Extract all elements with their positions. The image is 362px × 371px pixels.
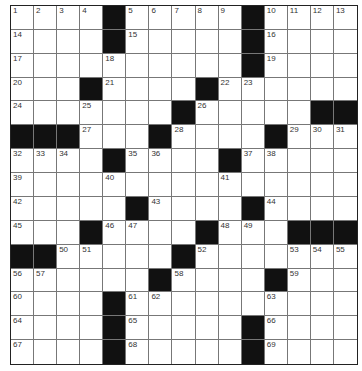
answer-cell[interactable]: 25: [80, 101, 103, 125]
answer-cell[interactable]: [196, 149, 219, 173]
answer-cell[interactable]: [172, 149, 195, 173]
answer-cell[interactable]: [311, 316, 334, 340]
answer-cell[interactable]: 62: [149, 292, 172, 316]
answer-cell[interactable]: [126, 101, 149, 125]
answer-cell[interactable]: [57, 78, 80, 102]
answer-cell[interactable]: [242, 173, 265, 197]
answer-cell[interactable]: [149, 221, 172, 245]
answer-cell[interactable]: 64: [11, 316, 34, 340]
answer-cell[interactable]: [126, 125, 149, 149]
answer-cell[interactable]: [34, 316, 57, 340]
answer-cell[interactable]: [80, 54, 103, 78]
answer-cell[interactable]: 3: [57, 6, 80, 30]
answer-cell[interactable]: [34, 197, 57, 221]
answer-cell[interactable]: 14: [11, 30, 34, 54]
answer-cell[interactable]: [34, 292, 57, 316]
answer-cell[interactable]: [196, 340, 219, 364]
answer-cell[interactable]: [334, 292, 357, 316]
answer-cell[interactable]: [172, 197, 195, 221]
answer-cell[interactable]: [334, 149, 357, 173]
answer-cell[interactable]: [311, 54, 334, 78]
answer-cell[interactable]: [103, 101, 126, 125]
answer-cell[interactable]: [288, 30, 311, 54]
answer-cell[interactable]: [288, 101, 311, 125]
answer-cell[interactable]: [242, 292, 265, 316]
answer-cell[interactable]: [311, 78, 334, 102]
answer-cell[interactable]: 55: [334, 245, 357, 269]
answer-cell[interactable]: [288, 173, 311, 197]
answer-cell[interactable]: [149, 101, 172, 125]
answer-cell[interactable]: [80, 149, 103, 173]
answer-cell[interactable]: [219, 30, 242, 54]
answer-cell[interactable]: 29: [288, 125, 311, 149]
answer-cell[interactable]: [334, 340, 357, 364]
answer-cell[interactable]: [242, 125, 265, 149]
answer-cell[interactable]: 60: [11, 292, 34, 316]
answer-cell[interactable]: 22: [219, 78, 242, 102]
answer-cell[interactable]: [172, 30, 195, 54]
answer-cell[interactable]: [288, 149, 311, 173]
answer-cell[interactable]: [219, 269, 242, 293]
answer-cell[interactable]: 40: [103, 173, 126, 197]
answer-cell[interactable]: 6: [149, 6, 172, 30]
answer-cell[interactable]: [219, 292, 242, 316]
answer-cell[interactable]: 18: [103, 54, 126, 78]
answer-cell[interactable]: [172, 340, 195, 364]
answer-cell[interactable]: [196, 316, 219, 340]
answer-cell[interactable]: 35: [126, 149, 149, 173]
answer-cell[interactable]: [80, 30, 103, 54]
answer-cell[interactable]: [103, 125, 126, 149]
answer-cell[interactable]: [80, 269, 103, 293]
answer-cell[interactable]: 10: [265, 6, 288, 30]
answer-cell[interactable]: 19: [265, 54, 288, 78]
answer-cell[interactable]: [172, 292, 195, 316]
answer-cell[interactable]: [219, 340, 242, 364]
answer-cell[interactable]: 15: [126, 30, 149, 54]
answer-cell[interactable]: 34: [57, 149, 80, 173]
answer-cell[interactable]: [288, 316, 311, 340]
answer-cell[interactable]: [57, 173, 80, 197]
answer-cell[interactable]: 61: [126, 292, 149, 316]
answer-cell[interactable]: [196, 30, 219, 54]
answer-cell[interactable]: [34, 78, 57, 102]
answer-cell[interactable]: [311, 173, 334, 197]
answer-cell[interactable]: [334, 30, 357, 54]
answer-cell[interactable]: [334, 269, 357, 293]
answer-cell[interactable]: 46: [103, 221, 126, 245]
answer-cell[interactable]: 53: [288, 245, 311, 269]
answer-cell[interactable]: [172, 78, 195, 102]
answer-cell[interactable]: 48: [219, 221, 242, 245]
answer-cell[interactable]: [149, 316, 172, 340]
answer-cell[interactable]: [219, 101, 242, 125]
answer-cell[interactable]: 16: [265, 30, 288, 54]
answer-cell[interactable]: 11: [288, 6, 311, 30]
answer-cell[interactable]: [149, 78, 172, 102]
answer-cell[interactable]: [288, 292, 311, 316]
answer-cell[interactable]: 36: [149, 149, 172, 173]
answer-cell[interactable]: [265, 78, 288, 102]
answer-cell[interactable]: [34, 340, 57, 364]
answer-cell[interactable]: 43: [149, 197, 172, 221]
answer-cell[interactable]: [219, 125, 242, 149]
answer-cell[interactable]: [57, 340, 80, 364]
answer-cell[interactable]: [311, 340, 334, 364]
answer-cell[interactable]: [80, 197, 103, 221]
answer-cell[interactable]: 33: [34, 149, 57, 173]
answer-cell[interactable]: [149, 340, 172, 364]
answer-cell[interactable]: 1: [11, 6, 34, 30]
answer-cell[interactable]: 7: [172, 6, 195, 30]
answer-cell[interactable]: 32: [11, 149, 34, 173]
answer-cell[interactable]: [34, 54, 57, 78]
answer-cell[interactable]: 57: [34, 269, 57, 293]
answer-cell[interactable]: [57, 54, 80, 78]
answer-cell[interactable]: 37: [242, 149, 265, 173]
answer-cell[interactable]: 23: [242, 78, 265, 102]
answer-cell[interactable]: [288, 78, 311, 102]
answer-cell[interactable]: [334, 78, 357, 102]
answer-cell[interactable]: [196, 125, 219, 149]
answer-cell[interactable]: [80, 173, 103, 197]
answer-cell[interactable]: [196, 292, 219, 316]
answer-cell[interactable]: [219, 54, 242, 78]
answer-cell[interactable]: 17: [11, 54, 34, 78]
answer-cell[interactable]: [334, 54, 357, 78]
